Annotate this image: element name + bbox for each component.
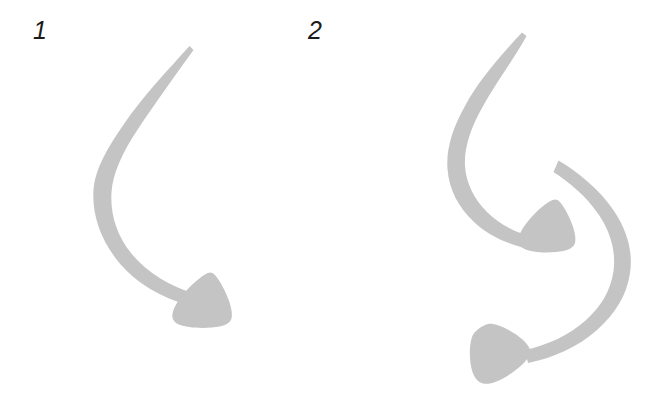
arrow-1-shaft [93, 46, 193, 305]
arrow-2-upper-head [518, 199, 575, 252]
figure-canvas: 1 2 [0, 0, 655, 405]
arrow-2-lower-head [470, 324, 530, 384]
arrows-illustration [0, 0, 655, 405]
arrow-group-1 [93, 46, 232, 328]
arrow-group-2 [447, 33, 631, 384]
panel-label-1: 1 [33, 18, 47, 43]
arrow-1-head [172, 272, 232, 327]
panel-label-2: 2 [308, 18, 322, 43]
arrow-2-lower-shaft [525, 161, 631, 364]
arrow-2-upper-shaft [447, 33, 538, 251]
